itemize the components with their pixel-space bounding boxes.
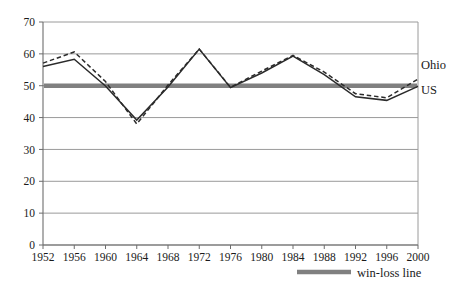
x-tick-label-1972: 1972 [188,251,211,263]
y-axis-labels: 010203040506070 [24,16,36,251]
x-axis-labels: 1952195619601964196819721976198019841988… [32,251,430,263]
plot-area-background [43,22,418,245]
y-axis-tick-marks [39,22,43,245]
x-tick-label-1992: 1992 [344,251,367,263]
y-tick-label-40: 40 [24,112,36,124]
x-axis-tick-marks [43,245,418,249]
series-label-us: US [421,83,437,97]
x-tick-label-1984: 1984 [282,251,305,263]
series-label-ohio: Ohio [421,58,446,72]
y-tick-label-50: 50 [24,80,36,92]
x-tick-label-2000: 2000 [407,251,430,263]
x-tick-label-1968: 1968 [157,251,180,263]
y-tick-label-0: 0 [29,239,35,251]
x-tick-label-1960: 1960 [94,251,117,263]
x-tick-label-1976: 1976 [219,251,242,263]
y-tick-label-70: 70 [24,16,36,28]
x-tick-label-1996: 1996 [375,251,398,263]
chart-canvas: 010203040506070 195219561960196419681972… [0,0,457,293]
x-tick-label-1956: 1956 [63,251,86,263]
x-tick-label-1988: 1988 [313,251,336,263]
x-tick-label-1952: 1952 [32,251,55,263]
x-tick-label-1964: 1964 [125,251,148,263]
legend: win-loss line [297,266,422,280]
y-tick-label-60: 60 [24,48,36,60]
y-tick-label-20: 20 [24,175,36,187]
x-tick-label-1980: 1980 [250,251,273,263]
y-tick-label-30: 30 [24,144,36,156]
line-chart: 010203040506070 195219561960196419681972… [0,0,457,293]
y-tick-label-10: 10 [24,207,36,219]
legend-label-win-loss-line: win-loss line [357,266,422,280]
